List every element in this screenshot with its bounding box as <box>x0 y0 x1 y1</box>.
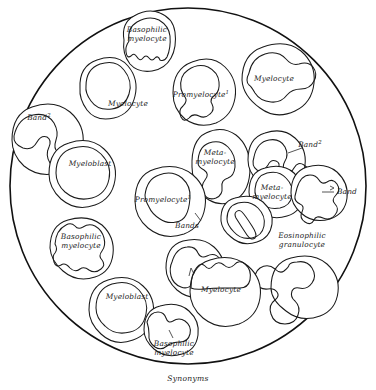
label-line: Myelocyte <box>108 99 148 108</box>
label-line: Myeloblast <box>106 292 149 301</box>
label-band-left: Band2 <box>27 113 51 122</box>
label-metamyelocyte-right: Meta- myelocyte <box>252 183 291 201</box>
label-myeloblast-left: Myeloblast <box>69 159 112 168</box>
label-line: myelocyte <box>252 192 291 201</box>
label-line: Promyelocyte1 <box>173 90 229 99</box>
label-basophilic-myelocyte-top: Basophilic myelocyte <box>127 25 167 43</box>
label-bands-center: Bands <box>175 221 199 230</box>
cell-myeloblast-left <box>49 141 116 208</box>
label-band-upper-right: Band2 <box>298 140 322 149</box>
label-line: myelocyte <box>61 241 101 250</box>
label-line: Basophilic <box>127 25 167 34</box>
label-line: Myelocyte <box>201 285 241 294</box>
label-basophilic-myelocyte-left: Basophilic myelocyte <box>61 232 101 250</box>
label-line: Bands <box>175 221 199 230</box>
label-superscript: 2 <box>47 112 51 118</box>
label-line: Band2 <box>298 140 322 149</box>
label-myeloblast-bottom: Myeloblast <box>106 292 149 301</box>
label-superscript: 2 <box>318 139 322 145</box>
label-eosinophilic-granulocyte: Eosinophilic granulocyte <box>278 231 326 249</box>
label-myelocyte-lower-center: Myelocyte <box>201 285 241 294</box>
label-band-right-edge: Band <box>337 187 357 196</box>
label-line: granulocyte <box>278 240 326 249</box>
label-line: myelocyte <box>195 157 234 166</box>
label-line: Basophilic <box>154 339 194 348</box>
blood-smear-figure: Basophilic myelocyte Myelocyte Promyeloc… <box>0 0 376 390</box>
label-myelocyte-top-right: Myelocyte <box>254 74 294 83</box>
label-line: myelocyte <box>154 348 194 357</box>
label-line: Myeloblast <box>69 159 112 168</box>
label-line: Band2 <box>27 113 51 122</box>
label-line: Basophilic <box>61 232 101 241</box>
label-line: Myelocyte <box>254 74 294 83</box>
label-superscript: 1 <box>226 89 230 95</box>
label-line: myelocyte <box>127 34 167 43</box>
figure-caption: Synonyms <box>0 374 376 383</box>
label-myelocyte-upper-left: Myelocyte <box>108 99 148 108</box>
label-line: Eosinophilic <box>278 231 326 240</box>
label-line: Meta- <box>252 183 291 192</box>
label-basophilic-myelocyte-bottom: Basophilic myelocyte <box>154 339 194 357</box>
label-line: Promyelocyte1 <box>135 195 191 204</box>
label-metamyelocyte-center: Meta- myelocyte <box>195 148 234 166</box>
cell-myelocyte-upper-left <box>80 58 136 119</box>
label-promyelocyte-center: Promyelocyte1 <box>135 195 191 204</box>
label-promyelocyte-top: Promyelocyte1 <box>173 90 229 99</box>
label-superscript: 1 <box>188 194 192 200</box>
label-line: Meta- <box>195 148 234 157</box>
label-line: Band <box>337 187 357 196</box>
